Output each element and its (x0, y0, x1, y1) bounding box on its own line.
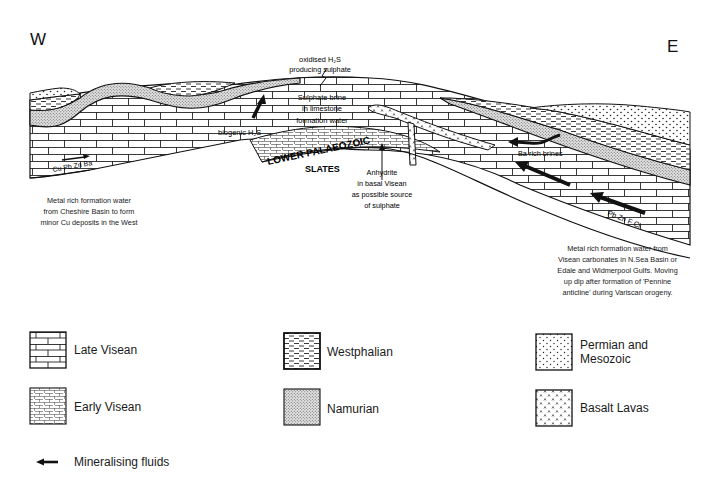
legend-label-early-visean: Early Visean (74, 400, 141, 414)
east-note-line: anticline' during Variscan orogeny. (540, 287, 695, 298)
legend-label-mineralising-fluids: Mineralising fluids (74, 455, 169, 469)
oxidised-label-2: producing sulphate (289, 65, 351, 74)
legend-label-westphalian: Westphalian (327, 345, 393, 359)
west-note-line: minor Cu deposits in the West (24, 217, 154, 228)
legend-label-namurian: Namurian (327, 402, 379, 416)
east-note-line: Edale and Widmerpool Gulfs. Moving (540, 265, 695, 276)
late-visean-swatch (29, 331, 67, 369)
legend-label-permian-mesozoic: Permian and Mesozoic (580, 338, 648, 366)
legend-label-basalt-lavas: Basalt Lavas (580, 401, 649, 415)
west-note-line: from Cheshire Basin to form (24, 206, 154, 217)
legend-label-line: Mesozoic (580, 352, 648, 366)
legend-label-late-visean: Late Visean (74, 343, 137, 357)
west-note: Metal rich formation water from Cheshire… (24, 195, 154, 228)
slates-label: SLATES (305, 164, 340, 174)
east-note-line: Metal rich formation water from (540, 243, 695, 254)
sulphate-brine-label-3: formation water (296, 116, 348, 125)
east-note-line: up dip after formation of 'Pennine (540, 276, 695, 287)
east-note: Metal rich formation water from Visean c… (540, 243, 695, 298)
anhydrite-label-2: in basal Visean (357, 179, 406, 188)
left-arrow-icon (36, 458, 58, 466)
west-note-line: Metal rich formation water (24, 195, 154, 206)
sulphate-brine-label-1: Sulphate brine (298, 93, 346, 102)
anhydrite-label-3: as possible source (352, 190, 412, 199)
legend-label-line: Permian and (580, 338, 648, 352)
basalt-lavas-swatch (535, 389, 573, 427)
westphalian-swatch (283, 332, 321, 370)
biogenic-h2s-label: biogenic H₂S (218, 128, 261, 137)
ba-rich-brines-label: Ba rich brines (518, 149, 563, 158)
early-visean-swatch (29, 387, 67, 425)
anhydrite-label-1: Anhydrite (367, 168, 398, 177)
sulphate-brine-label-2: in limestone (302, 104, 342, 113)
anhydrite-label-4: of sulphate (364, 201, 400, 210)
oxidised-label-1: oxidised H₂S (299, 55, 341, 64)
permian-mesozoic-swatch (535, 333, 573, 371)
namurian-swatch (283, 388, 321, 426)
east-note-line: Visean carbonates in N.Sea Basin or (540, 254, 695, 265)
